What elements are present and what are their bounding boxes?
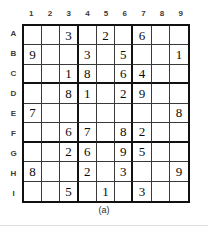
sudoku-cell-I8-empty[interactable] — [152, 182, 170, 201]
sudoku-cell-I5-given[interactable]: 1 — [97, 182, 115, 201]
row-header-D: D — [6, 84, 21, 104]
column-header-7: 7 — [134, 6, 153, 22]
sudoku-cell-H6-given[interactable]: 3 — [115, 162, 133, 181]
sudoku-cell-F5-empty[interactable] — [97, 123, 115, 142]
sudoku-cell-G1-empty[interactable] — [24, 143, 42, 162]
sudoku-cell-F1-empty[interactable] — [24, 123, 42, 142]
column-header-9: 9 — [171, 6, 190, 22]
sudoku-cell-H9-given[interactable]: 9 — [170, 162, 188, 181]
sudoku-cell-H4-given[interactable]: 2 — [79, 162, 97, 181]
sudoku-cell-D7-given[interactable]: 9 — [133, 84, 151, 103]
sudoku-cell-D4-given[interactable]: 1 — [79, 84, 97, 103]
sudoku-cell-F6-given[interactable]: 8 — [115, 123, 133, 142]
sudoku-grid[interactable]: 32693511864812978678226958239513 — [22, 24, 190, 203]
sudoku-cell-E7-empty[interactable] — [133, 104, 151, 123]
sudoku-cell-G8-empty[interactable] — [152, 143, 170, 162]
sudoku-cell-D9-empty[interactable] — [170, 84, 188, 103]
sudoku-cell-H5-empty[interactable] — [97, 162, 115, 181]
sudoku-cell-D2-empty[interactable] — [42, 84, 60, 103]
sudoku-cell-B5-empty[interactable] — [97, 45, 115, 64]
sudoku-cell-E3-empty[interactable] — [60, 104, 78, 123]
row-header-I: I — [6, 183, 21, 203]
sudoku-cell-C3-given[interactable]: 1 — [60, 65, 78, 84]
sudoku-cell-I4-empty[interactable] — [79, 182, 97, 201]
row-header-column: ABCDEFGHI — [6, 24, 21, 203]
column-header-8: 8 — [153, 6, 172, 22]
sudoku-cell-E2-empty[interactable] — [42, 104, 60, 123]
sudoku-cell-I2-empty[interactable] — [42, 182, 60, 201]
sudoku-cell-B8-empty[interactable] — [152, 45, 170, 64]
sudoku-cell-A6-empty[interactable] — [115, 26, 133, 45]
row-header-A: A — [6, 24, 21, 44]
sudoku-cell-E5-empty[interactable] — [97, 104, 115, 123]
sudoku-cell-E8-empty[interactable] — [152, 104, 170, 123]
sudoku-cell-A5-given[interactable]: 2 — [97, 26, 115, 45]
sudoku-cell-A2-empty[interactable] — [42, 26, 60, 45]
column-header-3: 3 — [59, 6, 78, 22]
sudoku-cell-B1-given[interactable]: 9 — [24, 45, 42, 64]
sudoku-cell-E4-empty[interactable] — [79, 104, 97, 123]
sudoku-cell-D1-empty[interactable] — [24, 84, 42, 103]
sudoku-cell-G3-given[interactable]: 2 — [60, 143, 78, 162]
sudoku-cell-I9-empty[interactable] — [170, 182, 188, 201]
sudoku-cell-E1-given[interactable]: 7 — [24, 104, 42, 123]
sudoku-cell-B9-given[interactable]: 1 — [170, 45, 188, 64]
column-header-6: 6 — [115, 6, 134, 22]
sudoku-cell-F4-given[interactable]: 7 — [79, 123, 97, 142]
sudoku-cell-H2-empty[interactable] — [42, 162, 60, 181]
sudoku-cell-G4-given[interactable]: 6 — [79, 143, 97, 162]
sudoku-cell-C2-empty[interactable] — [42, 65, 60, 84]
sudoku-cell-F7-given[interactable]: 2 — [133, 123, 151, 142]
sudoku-cell-I6-empty[interactable] — [115, 182, 133, 201]
sudoku-cell-G9-empty[interactable] — [170, 143, 188, 162]
column-header-1: 1 — [22, 6, 41, 22]
sudoku-cell-A7-given[interactable]: 6 — [133, 26, 151, 45]
sudoku-cell-A8-empty[interactable] — [152, 26, 170, 45]
sudoku-cell-C1-empty[interactable] — [24, 65, 42, 84]
sudoku-cell-B6-given[interactable]: 5 — [115, 45, 133, 64]
column-header-row: 123456789 — [22, 6, 190, 22]
row-header-E: E — [6, 104, 21, 124]
sudoku-cell-D3-given[interactable]: 8 — [60, 84, 78, 103]
sudoku-cell-C9-empty[interactable] — [170, 65, 188, 84]
sudoku-cell-G7-given[interactable]: 5 — [133, 143, 151, 162]
sudoku-cell-E9-given[interactable]: 8 — [170, 104, 188, 123]
sudoku-cell-H3-empty[interactable] — [60, 162, 78, 181]
column-header-5: 5 — [97, 6, 116, 22]
sudoku-cell-H8-empty[interactable] — [152, 162, 170, 181]
sudoku-cell-B4-given[interactable]: 3 — [79, 45, 97, 64]
sudoku-cell-A4-empty[interactable] — [79, 26, 97, 45]
sudoku-cell-I7-given[interactable]: 3 — [133, 182, 151, 201]
sudoku-cell-B7-empty[interactable] — [133, 45, 151, 64]
sudoku-cell-D8-empty[interactable] — [152, 84, 170, 103]
sudoku-cell-I3-given[interactable]: 5 — [60, 182, 78, 201]
sudoku-cell-F3-given[interactable]: 6 — [60, 123, 78, 142]
sudoku-cell-C7-given[interactable]: 4 — [133, 65, 151, 84]
sudoku-cell-D6-given[interactable]: 2 — [115, 84, 133, 103]
column-header-4: 4 — [78, 6, 97, 22]
sudoku-cell-E6-empty[interactable] — [115, 104, 133, 123]
sudoku-cell-H1-given[interactable]: 8 — [24, 162, 42, 181]
column-header-2: 2 — [41, 6, 60, 22]
sudoku-cell-C6-given[interactable]: 6 — [115, 65, 133, 84]
sudoku-cell-C8-empty[interactable] — [152, 65, 170, 84]
sudoku-cell-B3-empty[interactable] — [60, 45, 78, 64]
sudoku-cell-C5-empty[interactable] — [97, 65, 115, 84]
sudoku-cell-C4-given[interactable]: 8 — [79, 65, 97, 84]
row-header-H: H — [6, 163, 21, 183]
sudoku-cell-G6-given[interactable]: 9 — [115, 143, 133, 162]
row-header-G: G — [6, 143, 21, 163]
row-header-B: B — [6, 44, 21, 64]
sudoku-cell-G5-empty[interactable] — [97, 143, 115, 162]
sudoku-cell-A3-given[interactable]: 3 — [60, 26, 78, 45]
sudoku-cell-G2-empty[interactable] — [42, 143, 60, 162]
sudoku-cell-F9-empty[interactable] — [170, 123, 188, 142]
sudoku-cell-A1-empty[interactable] — [24, 26, 42, 45]
sudoku-cell-D5-empty[interactable] — [97, 84, 115, 103]
sudoku-cell-F2-empty[interactable] — [42, 123, 60, 142]
sudoku-cell-B2-empty[interactable] — [42, 45, 60, 64]
sudoku-cell-A9-empty[interactable] — [170, 26, 188, 45]
sudoku-cell-I1-empty[interactable] — [24, 182, 42, 201]
sudoku-cell-F8-empty[interactable] — [152, 123, 170, 142]
sudoku-cell-H7-empty[interactable] — [133, 162, 151, 181]
